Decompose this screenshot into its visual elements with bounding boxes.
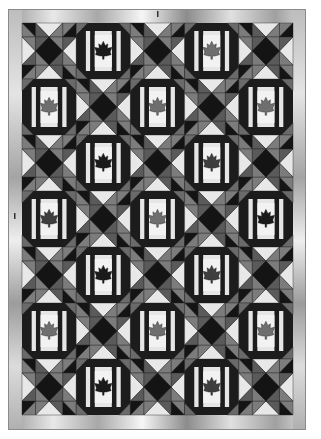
- leaf-frame-bar: [220, 367, 225, 407]
- leaf-frame-bar: [220, 31, 225, 71]
- leaf-frame-bar: [274, 199, 279, 239]
- hourglass-block: [239, 135, 293, 191]
- hourglass-block: [76, 79, 130, 135]
- leaf-frame-bar: [36, 87, 41, 127]
- maple-leaf-block: [239, 191, 293, 247]
- hourglass-block: [185, 79, 239, 135]
- leaf-frame-bar: [199, 367, 204, 407]
- maple-leaf-block: [185, 135, 239, 191]
- border-right: [293, 10, 305, 429]
- leaf-frame-bar: [36, 311, 41, 351]
- maple-leaf-block: [185, 359, 239, 415]
- leaf-frame-bar: [112, 143, 117, 183]
- maple-leaf-block: [22, 79, 76, 135]
- border-top-mark: [157, 11, 159, 17]
- leaf-frame-bar: [58, 87, 63, 127]
- hourglass-block: [239, 359, 293, 415]
- hourglass-block: [22, 23, 76, 79]
- leaf-frame-bar: [36, 199, 41, 239]
- leaf-frame-bar: [90, 255, 95, 295]
- leaf-frame-bar: [112, 367, 117, 407]
- leaf-frame-bar: [199, 31, 204, 71]
- leaf-frame-bar: [253, 199, 258, 239]
- leaf-frame-bar: [112, 255, 117, 295]
- leaf-frame-bar: [90, 367, 95, 407]
- leaf-frame-bar: [220, 143, 225, 183]
- leaf-frame-bar: [220, 255, 225, 295]
- hourglass-block: [130, 247, 184, 303]
- border-left: [9, 10, 22, 429]
- border-bottom: [9, 415, 305, 429]
- quilt-image: [0, 0, 321, 439]
- hourglass-block: [239, 247, 293, 303]
- maple-leaf-block: [130, 303, 184, 359]
- maple-leaf-block: [130, 191, 184, 247]
- maple-leaf-block: [185, 23, 239, 79]
- maple-leaf-block: [76, 247, 130, 303]
- hourglass-block: [239, 23, 293, 79]
- leaf-frame-bar: [144, 199, 149, 239]
- hourglass-block: [76, 303, 130, 359]
- leaf-frame-bar: [274, 311, 279, 351]
- leaf-frame-bar: [166, 311, 171, 351]
- hourglass-block: [22, 247, 76, 303]
- leaf-frame-bar: [58, 311, 63, 351]
- leaf-frame-bar: [253, 87, 258, 127]
- leaf-frame-bar: [253, 311, 258, 351]
- hourglass-block: [130, 135, 184, 191]
- maple-leaf-block: [185, 247, 239, 303]
- maple-leaf-block: [239, 79, 293, 135]
- quilt-blocks: [22, 23, 293, 415]
- border-left-mark: [14, 213, 16, 219]
- maple-leaf-block: [22, 303, 76, 359]
- hourglass-block: [185, 191, 239, 247]
- maple-leaf-block: [22, 191, 76, 247]
- leaf-frame-bar: [58, 199, 63, 239]
- hourglass-block: [185, 303, 239, 359]
- leaf-frame-bar: [199, 143, 204, 183]
- leaf-frame-bar: [144, 311, 149, 351]
- maple-leaf-block: [239, 303, 293, 359]
- maple-leaf-block: [130, 79, 184, 135]
- maple-leaf-block: [76, 359, 130, 415]
- hourglass-block: [22, 359, 76, 415]
- leaf-frame-bar: [274, 87, 279, 127]
- maple-leaf-block: [76, 135, 130, 191]
- leaf-frame-bar: [166, 87, 171, 127]
- hourglass-block: [76, 191, 130, 247]
- hourglass-block: [22, 135, 76, 191]
- hourglass-block: [130, 359, 184, 415]
- leaf-frame-bar: [144, 87, 149, 127]
- leaf-frame-bar: [199, 255, 204, 295]
- maple-leaf-block: [76, 23, 130, 79]
- leaf-frame-bar: [90, 143, 95, 183]
- leaf-frame-bar: [90, 31, 95, 71]
- leaf-frame-bar: [166, 199, 171, 239]
- leaf-frame-bar: [112, 31, 117, 71]
- hourglass-block: [130, 23, 184, 79]
